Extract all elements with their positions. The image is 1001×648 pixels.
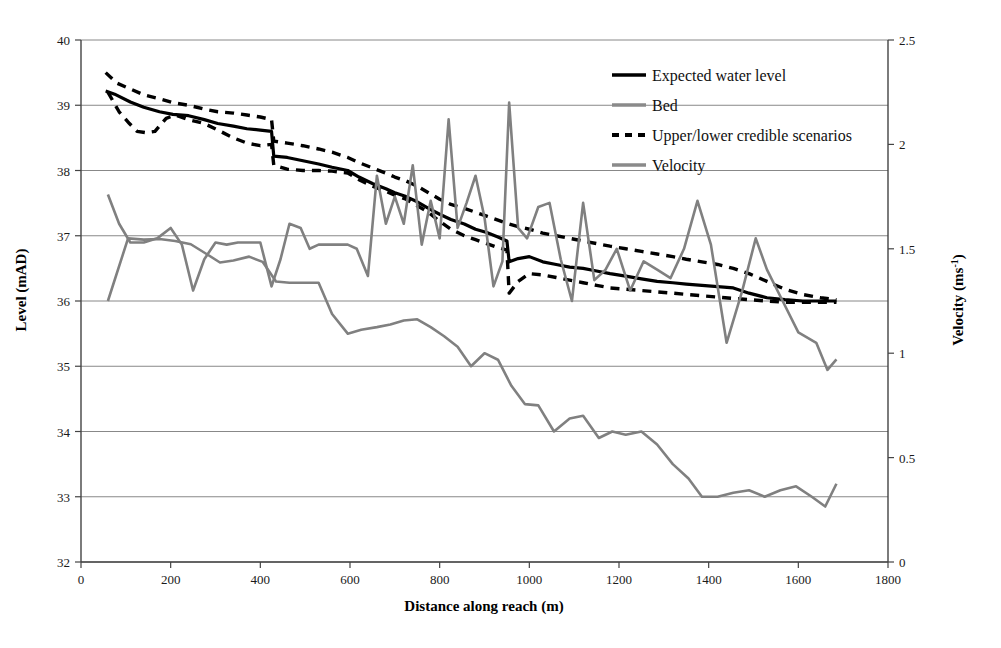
svg-text:Velocity (ms-1): Velocity (ms-1) xyxy=(949,254,967,346)
y-tick-label-33: 33 xyxy=(57,490,70,505)
x-tick-label-600: 600 xyxy=(340,572,360,587)
y-tick-label-34: 34 xyxy=(57,425,71,440)
y-tick-label-38: 38 xyxy=(57,164,70,179)
x-tick-label-400: 400 xyxy=(251,572,271,587)
y-axis-title: Level (mAD) xyxy=(13,249,30,332)
y-tick-label-39: 39 xyxy=(57,98,70,113)
legend-label-3: Velocity xyxy=(652,157,705,175)
y-tick-label-37: 37 xyxy=(57,229,71,244)
y2-axis-title-close: ) xyxy=(950,254,967,259)
legend-label-0: Expected water level xyxy=(652,67,787,85)
y2-tick-label-1: 1 xyxy=(899,346,906,361)
legend-label-2: Upper/lower credible scenarios xyxy=(652,127,852,145)
y-tick-label-35: 35 xyxy=(57,359,70,374)
y2-tick-label-1.5: 1.5 xyxy=(899,242,915,257)
x-tick-label-1400: 1400 xyxy=(696,572,722,587)
y2-axis-title-exponent: -1 xyxy=(949,259,960,267)
water-level-velocity-chart: 32333435363738394000.511.522.50200400600… xyxy=(0,0,1001,648)
x-axis-title: Distance along reach (m) xyxy=(404,598,563,615)
y-tick-label-32: 32 xyxy=(57,555,70,570)
y2-axis-title: Velocity (ms-1) xyxy=(949,254,967,346)
x-tick-label-1200: 1200 xyxy=(606,572,632,587)
legend-label-1: Bed xyxy=(652,97,678,114)
y-tick-label-40: 40 xyxy=(57,33,70,48)
x-tick-label-1600: 1600 xyxy=(785,572,811,587)
x-tick-label-1800: 1800 xyxy=(875,572,901,587)
x-tick-label-1000: 1000 xyxy=(516,572,542,587)
y2-tick-label-2.5: 2.5 xyxy=(899,33,915,48)
x-tick-label-800: 800 xyxy=(430,572,450,587)
y2-tick-label-0: 0 xyxy=(899,555,906,570)
chart-figure: 32333435363738394000.511.522.50200400600… xyxy=(0,0,1001,648)
y2-tick-label-0.5: 0.5 xyxy=(899,451,915,466)
x-tick-label-0: 0 xyxy=(78,572,85,587)
y2-tick-label-2: 2 xyxy=(899,137,906,152)
x-tick-label-200: 200 xyxy=(161,572,181,587)
y-tick-label-36: 36 xyxy=(57,294,71,309)
y2-axis-title-base: Velocity (ms xyxy=(950,267,967,345)
